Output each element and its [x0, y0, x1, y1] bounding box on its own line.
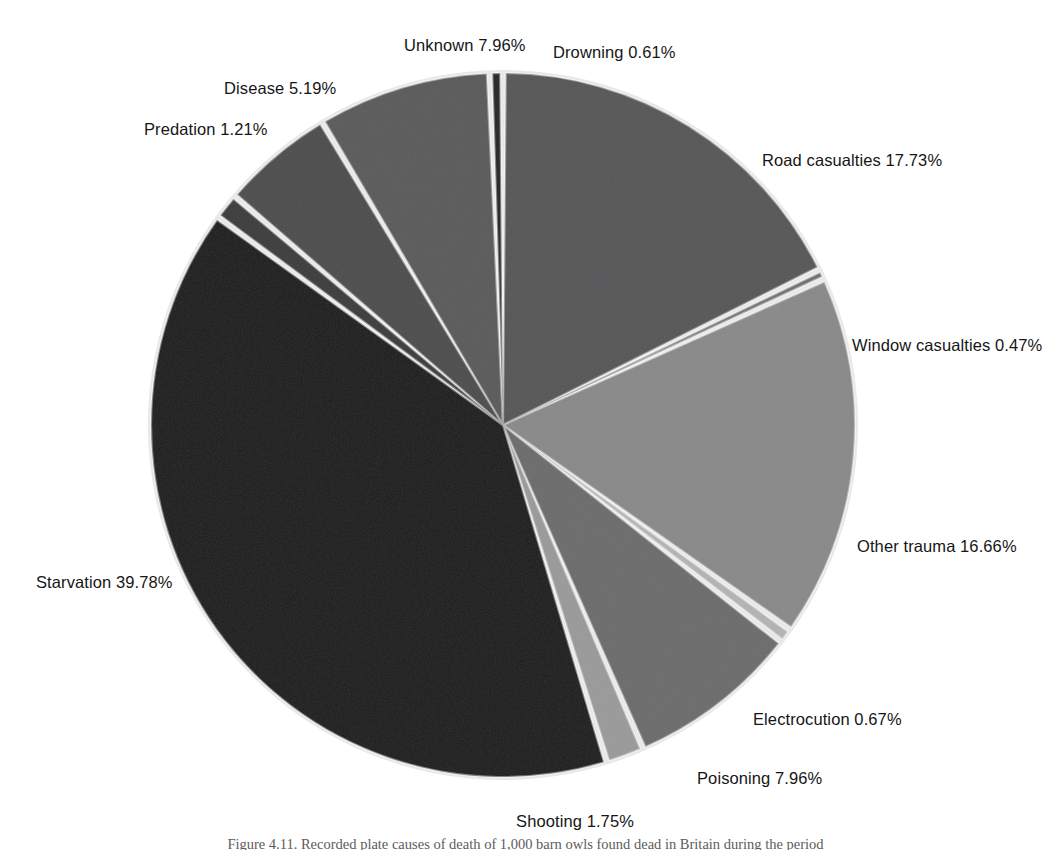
pie-slice-label: Other trauma 16.66%	[857, 537, 1017, 555]
pie-slice-label: Disease 5.19%	[224, 79, 336, 97]
figure-caption: Figure 4.11. Recorded plate causes of de…	[0, 836, 1051, 850]
figure-caption-text: Figure 4.11. Recorded plate causes of de…	[217, 836, 833, 850]
pie-slice-label: Poisoning 7.96%	[697, 769, 822, 787]
pie-slice-label: Starvation 39.78%	[36, 573, 173, 591]
pie-slice-label: Drowning 0.61%	[553, 43, 675, 61]
pie-slice-label: Window casualties 0.47%	[852, 336, 1042, 354]
pie-slice-label: Predation 1.21%	[144, 120, 268, 138]
pie-slice-label: Unknown 7.96%	[404, 36, 525, 54]
pie-slice-label: Shooting 1.75%	[516, 812, 634, 830]
pie-slice-label: Road casualties 17.73%	[762, 151, 942, 169]
pie-slice-label: Electrocution 0.67%	[753, 710, 902, 728]
